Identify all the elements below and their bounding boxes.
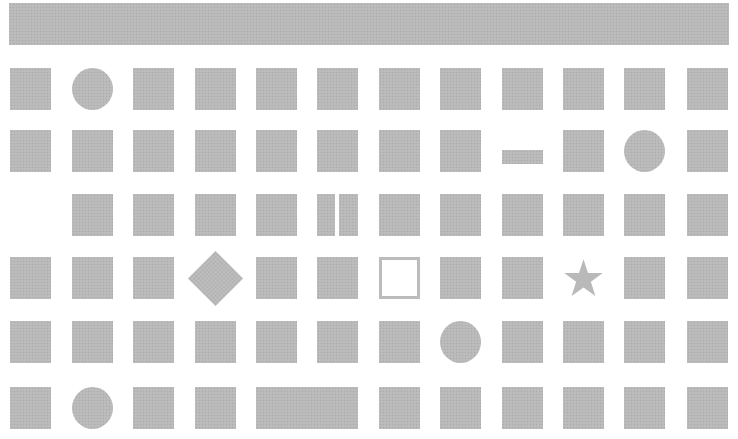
diamond-fill: [188, 250, 243, 305]
square-shape: [379, 68, 420, 110]
square-shape: [563, 387, 604, 429]
square-shape: [256, 130, 297, 172]
square-shape: [10, 257, 51, 299]
square-shape: [687, 387, 728, 429]
square-shape: [502, 194, 543, 236]
square-shape: [502, 68, 543, 110]
square-shape: [624, 387, 665, 429]
diamond-shape: [190, 252, 241, 304]
square-shape: [10, 387, 51, 429]
square-shape: [687, 321, 728, 363]
star-icon: [563, 257, 604, 299]
square-shape: [379, 194, 420, 236]
square-shape: [563, 321, 604, 363]
square-shape: [379, 130, 420, 172]
square-shape: [687, 68, 728, 110]
square-shape: [563, 68, 604, 110]
square-shape: [195, 130, 236, 172]
square-shape: [440, 130, 481, 172]
square-shape: [133, 387, 174, 429]
square-shape: [133, 194, 174, 236]
square-shape: [624, 257, 665, 299]
square-shape: [72, 257, 113, 299]
square-shape: [72, 130, 113, 172]
square-shape: [256, 68, 297, 110]
square-shape: [563, 130, 604, 172]
square-shape: [440, 194, 481, 236]
square-shape: [624, 321, 665, 363]
square-shape: [195, 68, 236, 110]
square-shape: [317, 257, 358, 299]
square-shape: [195, 321, 236, 363]
square-shape: [10, 130, 51, 172]
square-shape: [379, 387, 420, 429]
split-shape-left: [317, 194, 335, 236]
square-shape: [502, 387, 543, 429]
square-shape: [256, 257, 297, 299]
square-shape: [440, 68, 481, 110]
circle-shape: [624, 130, 665, 172]
square-shape: [687, 130, 728, 172]
square-shape: [379, 321, 420, 363]
square-shape: [72, 194, 113, 236]
square-shape: [195, 194, 236, 236]
square-shape: [317, 130, 358, 172]
square-shape: [624, 68, 665, 110]
square-shape: [317, 321, 358, 363]
square-shape: [502, 257, 543, 299]
square-shape: [502, 321, 543, 363]
wide-rect-shape: [256, 387, 358, 429]
square-shape: [256, 321, 297, 363]
square-shape: [133, 321, 174, 363]
circle-shape: [72, 387, 113, 429]
square-shape: [133, 68, 174, 110]
top-bar: [9, 3, 729, 45]
square-shape: [317, 68, 358, 110]
square-shape: [256, 194, 297, 236]
square-shape: [10, 68, 51, 110]
hollow-square-shape: [379, 257, 420, 299]
square-shape: [563, 194, 604, 236]
square-shape: [440, 257, 481, 299]
square-shape: [687, 257, 728, 299]
square-shape: [133, 257, 174, 299]
square-shape: [10, 321, 51, 363]
bar-shape: [502, 150, 543, 164]
square-shape: [195, 387, 236, 429]
square-shape: [133, 130, 174, 172]
square-shape: [687, 194, 728, 236]
square-shape: [440, 387, 481, 429]
circle-shape: [72, 68, 113, 110]
square-shape: [624, 194, 665, 236]
circle-shape: [440, 321, 481, 363]
split-shape-right: [339, 194, 358, 236]
square-shape: [72, 321, 113, 363]
